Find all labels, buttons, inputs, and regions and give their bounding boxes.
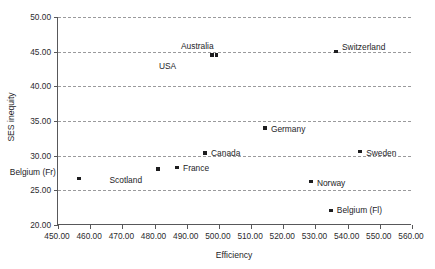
gridline-horizontal [58,52,411,53]
data-point-marker [156,167,159,170]
y-tick-label: 20.00 [30,221,51,229]
y-tick-label: 35.00 [30,117,51,125]
data-point-marker [210,53,213,56]
y-tick-mark [54,121,58,122]
data-point-label: Norway [317,179,345,187]
x-tick-mark [251,225,252,229]
y-tick-mark [54,86,58,87]
x-tick-mark [90,225,91,229]
data-point-label: Belgium (Fr) [10,168,56,176]
y-tick-mark [54,156,58,157]
x-tick-mark [219,225,220,229]
data-point-marker [334,50,337,53]
data-point-marker [309,180,312,183]
gridline-horizontal [58,190,411,191]
y-axis-title: SES inequity [6,77,16,157]
y-tick-label: 40.00 [30,82,51,90]
data-point-marker [77,177,80,180]
x-axis-title: Efficiency [57,250,411,260]
data-point-label: Australia [181,42,214,50]
x-tick-mark [58,225,59,229]
x-tick-mark [283,225,284,229]
data-point-marker [215,53,218,56]
data-point-label: USA [159,62,176,70]
x-tick-label: 560.00 [388,232,434,240]
data-point-label: Switzerland [342,43,385,51]
y-tick-mark [54,17,58,18]
data-point-label: Canada [211,149,240,157]
y-tick-label: 25.00 [30,186,51,194]
y-tick-label: 45.00 [30,48,51,56]
x-tick-mark [187,225,188,229]
data-point-marker [175,166,178,169]
scatter-chart: SES inequity Efficiency 20.0025.0030.003… [0,0,435,269]
data-point-label: Belgium (Fl) [337,206,382,214]
data-point-label: Scotland [109,176,142,184]
x-tick-mark [315,225,316,229]
data-point-marker [203,151,206,154]
y-tick-label: 50.00 [30,13,51,21]
data-point-label: Sweden [366,149,396,157]
gridline-horizontal [58,17,411,18]
data-point-label: Germany [271,125,305,133]
data-point-label: France [183,164,209,172]
y-tick-mark [54,190,58,191]
x-tick-mark [155,225,156,229]
gridline-horizontal [58,121,411,122]
y-tick-mark [54,52,58,53]
data-point-marker [263,126,266,129]
x-tick-mark [348,225,349,229]
x-tick-mark [380,225,381,229]
data-point-marker [358,150,361,153]
data-point-marker [329,209,332,212]
x-tick-mark [122,225,123,229]
x-tick-mark [412,225,413,229]
y-tick-label: 30.00 [30,152,51,160]
gridline-horizontal [58,86,411,87]
